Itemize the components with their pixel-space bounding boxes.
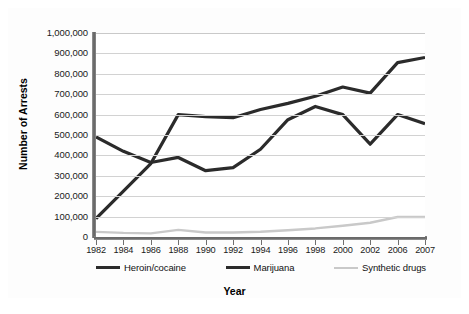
y-axis-tick-label: 400,000	[2, 150, 88, 160]
y-axis-tick-label: 100,000	[2, 212, 88, 222]
legend-swatch	[334, 267, 358, 269]
gridline	[96, 135, 425, 136]
x-axis-tick-label: 2007	[408, 245, 442, 255]
gridline	[96, 196, 425, 197]
y-axis-tick-label: 200,000	[2, 191, 88, 201]
y-axis-tick-label: 500,000	[2, 130, 88, 140]
y-axis-tick-label: 700,000	[2, 89, 88, 99]
legend-label: Synthetic drugs	[362, 262, 426, 273]
y-axis-tick-labels: 0100,000200,000300,000400,000500,000600,…	[0, 0, 88, 314]
gridline	[96, 94, 425, 95]
y-axis-tick-label: 600,000	[2, 110, 88, 120]
chart-figure: Number of Arrests 0100,000200,000300,000…	[0, 0, 469, 314]
plot-area	[96, 33, 425, 237]
legend-swatch	[96, 266, 120, 269]
y-axis-tick-label: 900,000	[2, 48, 88, 58]
gridline	[96, 217, 425, 218]
legend-item[interactable]: Synthetic drugs	[334, 262, 426, 273]
gridline	[96, 33, 425, 34]
gridlines	[96, 33, 425, 237]
y-axis-tick-label: 0	[2, 232, 88, 242]
legend-label: Heroin/cocaine	[124, 262, 186, 273]
y-axis-tick-label: 1,000,000	[2, 28, 88, 38]
x-axis-title: Year	[0, 285, 469, 297]
gridline	[96, 74, 425, 75]
chart-legend: Heroin/cocaineMarijuanaSynthetic drugs	[96, 262, 426, 273]
gridline	[96, 115, 425, 116]
y-axis-tick-label: 800,000	[2, 69, 88, 79]
gridline	[96, 155, 425, 156]
legend-item[interactable]: Heroin/cocaine	[96, 262, 186, 273]
legend-item[interactable]: Marijuana	[226, 262, 295, 273]
gridline	[96, 53, 425, 54]
legend-swatch	[226, 266, 250, 269]
legend-label: Marijuana	[254, 262, 295, 273]
y-axis-tick-label: 300,000	[2, 171, 88, 181]
gridline	[96, 176, 425, 177]
